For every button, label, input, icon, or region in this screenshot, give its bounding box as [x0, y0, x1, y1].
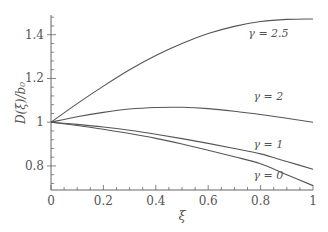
x-tick-label: 0.2: [94, 194, 113, 208]
y-tick-label: 1.4: [25, 28, 44, 42]
y-tick-label: 1: [36, 115, 44, 129]
curve-label: γ = 2: [254, 90, 284, 103]
curve-label: γ = 1: [254, 138, 284, 151]
x-tick-label: 1: [309, 194, 317, 208]
line-chart: 00.20.40.60.810.811.21.4 γ = 2.5γ = 2γ =…: [0, 0, 328, 232]
x-tick-label: 0.4: [146, 194, 165, 208]
x-tick-label: 0.6: [199, 194, 218, 208]
curve-labels: γ = 2.5γ = 2γ = 1γ = 0: [248, 27, 288, 182]
y-axis-label: D(ξ)/b₀: [14, 82, 28, 125]
ticks: [47, 17, 313, 190]
x-tick-label: 0.8: [251, 194, 270, 208]
series-line: [51, 107, 313, 122]
y-tick-label: 0.8: [25, 159, 44, 173]
x-axis-label: ξ: [178, 208, 186, 223]
curve-label: γ = 0: [254, 169, 284, 182]
x-tick-label: 0: [47, 194, 55, 208]
curve-label: γ = 2.5: [248, 27, 288, 40]
